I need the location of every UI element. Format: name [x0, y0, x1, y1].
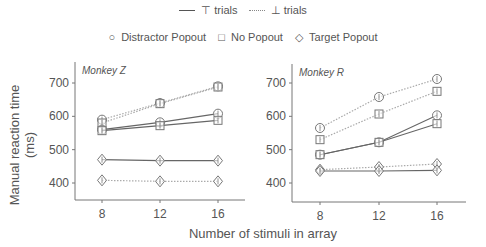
x-tick-label: 16	[211, 207, 225, 221]
y-tick-label: 700	[49, 76, 69, 90]
y-tick-label: 500	[49, 143, 69, 157]
series-line	[320, 115, 437, 154]
x-tick-label: 12	[153, 207, 167, 221]
y-tick-label: 400	[266, 176, 286, 190]
panel-title: Monkey Z	[82, 65, 127, 76]
y-tick-label: 500	[266, 143, 286, 157]
panel-monkey-r: 40050060070081216Monkey R	[266, 64, 466, 223]
x-tick-label: 16	[430, 209, 444, 223]
x-tick-label: 8	[99, 207, 106, 221]
series-line	[320, 79, 437, 128]
x-tick-label: 8	[317, 209, 324, 223]
x-axis-label: Number of stimuli in array	[0, 226, 486, 241]
chart-area: 40050060070081216Monkey Z400500600700812…	[0, 0, 486, 247]
y-tick-label: 600	[266, 109, 286, 123]
y-tick-label: 700	[266, 76, 286, 90]
x-tick-label: 12	[372, 209, 386, 223]
y-axis-label: Manual reaction time (ms)	[7, 75, 37, 215]
panel-title: Monkey R	[299, 67, 344, 78]
y-tick-label: 600	[49, 109, 69, 123]
y-tick-label: 400	[49, 176, 69, 190]
panel-monkey-z: 40050060070081216Monkey Z	[49, 62, 245, 221]
